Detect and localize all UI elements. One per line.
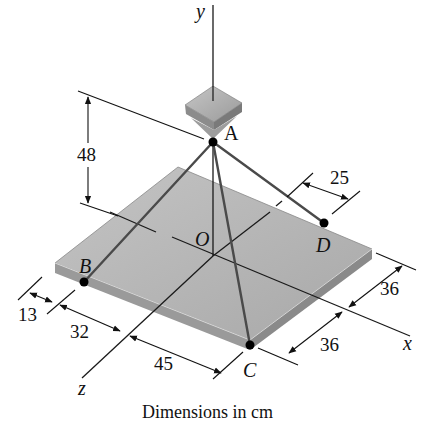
point-label-O: O	[195, 229, 209, 249]
point-A	[209, 138, 218, 147]
figure-caption: Dimensions in cm	[142, 403, 273, 421]
point-label-B: B	[79, 256, 91, 276]
axis-label-y: y	[196, 1, 205, 21]
dimension-25	[287, 173, 360, 214]
dim-label-25: 25	[330, 168, 349, 187]
dim-label-36-lower: 36	[320, 335, 339, 354]
point-B	[80, 278, 89, 287]
dim-label-48: 48	[77, 145, 96, 164]
axis-label-z: z	[78, 378, 86, 398]
point-label-D: D	[316, 235, 330, 255]
diagram-canvas	[0, 0, 422, 425]
dim-label-45: 45	[154, 354, 173, 373]
dim-label-13: 13	[18, 305, 37, 324]
point-label-C: C	[243, 360, 256, 380]
point-label-A: A	[224, 123, 238, 143]
axis-label-x: x	[403, 333, 412, 353]
dim-label-36-upper: 36	[380, 279, 399, 298]
dim-label-32: 32	[70, 322, 89, 341]
point-C	[246, 341, 255, 350]
point-D	[320, 219, 329, 228]
